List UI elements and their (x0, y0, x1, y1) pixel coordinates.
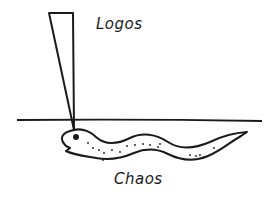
logos-label: Logos (96, 15, 143, 33)
serpent-eye (73, 134, 79, 140)
chaos-label: Chaos (114, 170, 163, 188)
horizon-line (17, 120, 262, 121)
wedge-shape (49, 13, 74, 130)
diagram-canvas: Logos Chaos (0, 0, 278, 198)
serpent-shape (62, 129, 247, 161)
